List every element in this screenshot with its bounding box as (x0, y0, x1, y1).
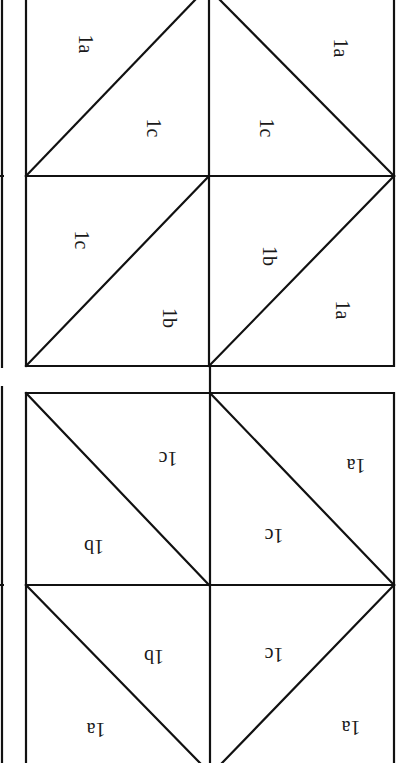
label-top-tr-inner: 1c (256, 119, 278, 138)
bottom-panel: 1c 1b 1a 1c 1b 1a 1c 1a (26, 393, 394, 763)
top-panel-diagonal-tr (220, 0, 394, 176)
bottom-panel-diagonal-tl (26, 393, 209, 585)
label-top-br-upper: 1b (259, 246, 281, 266)
label-bottom-tl-lower: 1b (84, 536, 104, 558)
label-top-tl-outer: 1a (75, 35, 97, 54)
label-bottom-bl-lower: 1a (86, 719, 105, 741)
bottom-panel-diagonal-br (222, 585, 394, 763)
label-top-br-lower: 1a (332, 301, 354, 320)
top-panel-diagonal-br (209, 176, 394, 366)
top-panel: 1a 1c 1c 1a 1c 1b 1b 1a (26, 0, 394, 366)
label-top-bl-lower: 1b (159, 308, 181, 328)
label-top-tl-inner: 1c (143, 119, 165, 138)
label-top-tr-outer: 1a (330, 39, 352, 58)
label-bottom-br-upper: 1c (264, 644, 283, 666)
label-top-bl-upper: 1c (71, 231, 93, 250)
label-bottom-bl-upper: 1b (144, 646, 164, 668)
label-bottom-tr-upper: 1a (346, 455, 365, 477)
quilt-pattern-diagram: 1a 1c 1c 1a 1c 1b 1b 1a 1c 1b 1a 1c 1b 1… (0, 0, 408, 763)
top-panel-diagonal-tl (26, 0, 195, 176)
label-bottom-tr-lower: 1c (264, 525, 283, 547)
bottom-panel-diagonal-tr (210, 393, 394, 585)
label-bottom-br-lower: 1a (341, 717, 360, 739)
label-bottom-tl-upper: 1c (158, 448, 177, 470)
top-panel-diagonal-bl (26, 176, 209, 366)
bottom-panel-diagonal-bl (26, 585, 200, 763)
